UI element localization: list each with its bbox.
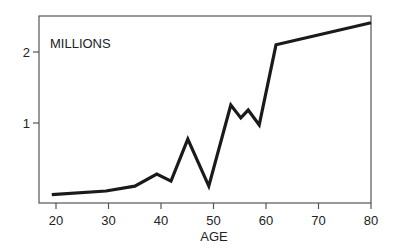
- x-tick-label: 40: [154, 213, 168, 228]
- y-axis-ticks: 12: [23, 45, 39, 131]
- x-tick-label: 20: [49, 213, 63, 228]
- x-tick-label: 30: [101, 213, 115, 228]
- x-axis-title: AGE: [200, 229, 228, 244]
- annotation-label: MILLIONS: [50, 36, 111, 51]
- x-tick-label: 50: [206, 213, 220, 228]
- x-axis-ticks: 20304050607080: [49, 203, 378, 228]
- x-tick-label: 70: [311, 213, 325, 228]
- y-tick-label: 1: [23, 116, 30, 131]
- y-tick-label: 2: [23, 45, 30, 60]
- line-chart: 20304050607080 12 MILLIONS AGE: [0, 0, 397, 252]
- x-tick-label: 80: [364, 213, 378, 228]
- x-tick-label: 60: [259, 213, 273, 228]
